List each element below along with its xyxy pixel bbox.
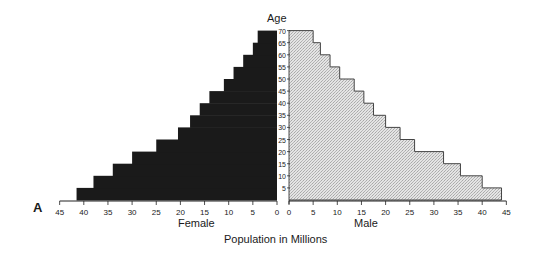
- male-bars: [289, 31, 502, 201]
- male-bar-5-10: [289, 176, 482, 189]
- male-bar-60-65: [289, 43, 320, 56]
- female-bar-0-5: [77, 188, 277, 201]
- female-x-tick-label: 10: [224, 208, 233, 217]
- age-tick-label: 25: [278, 137, 286, 144]
- male-x-tick-label: 30: [429, 208, 438, 217]
- age-axis-title: Age: [267, 12, 287, 24]
- female-x-tick-label: 45: [55, 208, 64, 217]
- female-bar-40-45: [209, 91, 277, 104]
- age-tick-label: 45: [278, 88, 286, 95]
- female-bar-20-25: [156, 140, 277, 153]
- female-x-tick-label: 40: [79, 208, 88, 217]
- female-bar-15-20: [132, 152, 277, 165]
- x-axis-title: Population in Millions: [224, 233, 327, 245]
- male-bar-45-50: [289, 79, 354, 92]
- male-x-tick-label: 25: [405, 208, 414, 217]
- male-x-tick-label: 10: [333, 208, 342, 217]
- age-tick-label: 30: [278, 124, 286, 131]
- female-x-tick-label: 0: [275, 208, 280, 217]
- male-bar-15-20: [289, 152, 444, 165]
- male-bar-35-40: [289, 103, 374, 116]
- female-bar-45-50: [224, 79, 277, 92]
- female-x-tick-label: 35: [103, 208, 112, 217]
- age-tick-label: 20: [278, 149, 286, 156]
- population-pyramid-chart: 510152025303540455055606570 454035302520…: [0, 0, 538, 254]
- male-x-tick-label: 35: [454, 208, 463, 217]
- female-x-tick-label: 15: [200, 208, 209, 217]
- male-bar-30-35: [289, 115, 386, 128]
- male-x-tick-label: 45: [502, 208, 511, 217]
- female-bar-30-35: [190, 115, 277, 128]
- age-tick-label: 65: [278, 40, 286, 47]
- age-tick-label: 70: [278, 28, 286, 35]
- female-bar-65-70: [258, 31, 277, 44]
- female-x-tick-label: 25: [152, 208, 161, 217]
- female-bar-60-65: [253, 43, 277, 56]
- male-x-tick-label: 40: [478, 208, 487, 217]
- female-x-tick-label: 5: [251, 208, 256, 217]
- age-axis: 510152025303540455055606570: [278, 28, 290, 192]
- female-bar-10-15: [113, 164, 277, 177]
- male-bar-50-55: [289, 67, 340, 80]
- male-x-tick-label: 0: [287, 208, 292, 217]
- female-x-tick-label: 20: [176, 208, 185, 217]
- male-bar-10-15: [289, 164, 460, 177]
- female-bar-25-30: [178, 127, 277, 140]
- male-x-tick-label: 15: [357, 208, 366, 217]
- female-bar-50-55: [234, 67, 277, 80]
- age-tick-label: 5: [282, 185, 286, 192]
- female-bars: [77, 31, 277, 201]
- age-tick-label: 35: [278, 112, 286, 119]
- male-x-tick-label: 20: [381, 208, 390, 217]
- male-bar-55-60: [289, 55, 330, 68]
- male-bar-65-70: [289, 31, 313, 44]
- panel-label: A: [33, 200, 42, 215]
- age-tick-label: 40: [278, 100, 286, 107]
- female-x-tick-label: 30: [128, 208, 137, 217]
- age-tick-label: 55: [278, 64, 286, 71]
- female-bar-5-10: [93, 176, 277, 189]
- female-bar-35-40: [200, 103, 277, 116]
- age-tick-label: 10: [278, 173, 286, 180]
- male-bar-20-25: [289, 140, 415, 153]
- age-tick-label: 60: [278, 52, 286, 59]
- female-label: Female: [178, 217, 215, 229]
- male-bar-25-30: [289, 127, 400, 140]
- age-tick-label: 50: [278, 76, 286, 83]
- male-x-tick-label: 5: [311, 208, 316, 217]
- female-bar-55-60: [243, 55, 277, 68]
- age-tick-label: 15: [278, 161, 286, 168]
- male-bar-40-45: [289, 91, 364, 104]
- male-bar-0-5: [289, 188, 502, 201]
- male-label: Male: [354, 217, 378, 229]
